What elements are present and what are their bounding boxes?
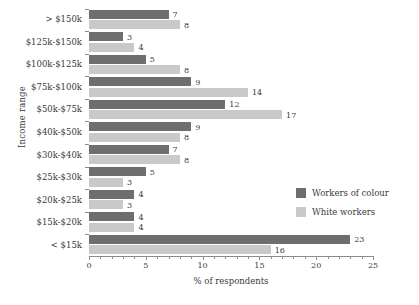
x-tick-major bbox=[373, 256, 374, 260]
x-tick-minor bbox=[362, 256, 363, 259]
y-category-label: < $15k bbox=[51, 240, 82, 250]
bar-row: $75k-$100k914 bbox=[89, 76, 373, 99]
bar-white-workers bbox=[89, 155, 180, 164]
x-tick-minor bbox=[180, 256, 181, 259]
bar-value-label: 8 bbox=[184, 20, 189, 29]
bar-value-label: 3 bbox=[127, 178, 132, 187]
x-tick-label: 25 bbox=[368, 261, 378, 270]
x-tick-minor bbox=[305, 256, 306, 259]
bar-value-label: 4 bbox=[138, 212, 143, 221]
x-tick-minor bbox=[350, 256, 351, 259]
x-tick-major bbox=[89, 256, 90, 260]
bar-chart: Income range 0510152025 > $150k78$125k-$… bbox=[0, 0, 419, 305]
bar-value-label: 23 bbox=[354, 235, 364, 244]
bar-white-workers bbox=[89, 20, 180, 29]
x-axis-title: % of respondents bbox=[89, 276, 373, 286]
x-tick-minor bbox=[100, 256, 101, 259]
bar-white-workers bbox=[89, 88, 248, 97]
bar-workers-of-colour bbox=[89, 10, 169, 19]
x-tick-major bbox=[316, 256, 317, 260]
bar-value-label: 3 bbox=[127, 32, 132, 41]
bar-row: $125k-$150k34 bbox=[89, 31, 373, 54]
bar-row: $30k-$40k78 bbox=[89, 143, 373, 166]
bar-value-label: 3 bbox=[127, 200, 132, 209]
y-category-label: $40k-$50k bbox=[37, 127, 82, 137]
bar-white-workers bbox=[89, 245, 271, 254]
x-tick-label: 5 bbox=[143, 261, 148, 270]
bar-workers-of-colour bbox=[89, 122, 191, 131]
bar-white-workers bbox=[89, 223, 134, 232]
bar-workers-of-colour bbox=[89, 235, 350, 244]
x-tick-minor bbox=[134, 256, 135, 259]
bar-workers-of-colour bbox=[89, 32, 123, 41]
bar-white-workers bbox=[89, 178, 123, 187]
bar-white-workers bbox=[89, 200, 123, 209]
bar-row: < $15k2316 bbox=[89, 233, 373, 256]
x-tick-minor bbox=[282, 256, 283, 259]
bar-value-label: 4 bbox=[138, 223, 143, 232]
bar-workers-of-colour bbox=[89, 190, 134, 199]
y-axis-title: Income range bbox=[17, 62, 27, 172]
bar-row: $25k-$30k53 bbox=[89, 166, 373, 189]
x-tick-major bbox=[146, 256, 147, 260]
legend-item-white-workers: White workers bbox=[296, 207, 389, 217]
y-category-label: $25k-$30k bbox=[37, 172, 82, 182]
bar-value-label: 8 bbox=[184, 155, 189, 164]
x-axis-line bbox=[89, 256, 373, 257]
legend-label-workers-of-colour: Workers of colour bbox=[312, 188, 389, 198]
bar-row: > $150k78 bbox=[89, 8, 373, 31]
bar-workers-of-colour bbox=[89, 145, 169, 154]
y-category-label: $75k-$100k bbox=[31, 82, 82, 92]
x-tick-label: 10 bbox=[198, 261, 208, 270]
x-tick-minor bbox=[157, 256, 158, 259]
bar-value-label: 7 bbox=[173, 10, 178, 19]
bar-workers-of-colour bbox=[89, 212, 134, 221]
x-tick-minor bbox=[225, 256, 226, 259]
bar-workers-of-colour bbox=[89, 77, 191, 86]
bar-row: $100k-$125k58 bbox=[89, 53, 373, 76]
bar-value-label: 7 bbox=[173, 145, 178, 154]
y-category-label: $100k-$125k bbox=[26, 59, 82, 69]
bar-white-workers bbox=[89, 65, 180, 74]
x-tick-minor bbox=[328, 256, 329, 259]
bar-value-label: 16 bbox=[275, 245, 285, 254]
y-category-label: > $150k bbox=[45, 14, 82, 24]
x-tick-minor bbox=[123, 256, 124, 259]
x-tick-minor bbox=[214, 256, 215, 259]
bar-white-workers bbox=[89, 133, 180, 142]
x-tick-label: 15 bbox=[254, 261, 264, 270]
bar-value-label: 5 bbox=[150, 167, 155, 176]
y-category-label: $30k-$40k bbox=[37, 150, 82, 160]
x-tick-minor bbox=[293, 256, 294, 259]
bar-white-workers bbox=[89, 43, 134, 52]
legend-swatch-icon-light bbox=[296, 207, 306, 217]
bar-value-label: 17 bbox=[286, 110, 296, 119]
x-tick-minor bbox=[271, 256, 272, 259]
bar-white-workers bbox=[89, 110, 282, 119]
x-tick-major bbox=[259, 256, 260, 260]
legend-label-white-workers: White workers bbox=[312, 207, 375, 217]
y-category-label: $15k-$20k bbox=[37, 217, 82, 227]
x-tick-minor bbox=[339, 256, 340, 259]
y-category-label: $125k-$150k bbox=[26, 37, 82, 47]
x-tick-minor bbox=[248, 256, 249, 259]
bar-value-label: 9 bbox=[195, 77, 200, 86]
bar-value-label: 4 bbox=[138, 190, 143, 199]
legend-item-workers-of-colour: Workers of colour bbox=[296, 188, 389, 198]
x-tick-minor bbox=[237, 256, 238, 259]
bar-workers-of-colour bbox=[89, 55, 146, 64]
bar-value-label: 8 bbox=[184, 65, 189, 74]
bar-value-label: 8 bbox=[184, 133, 189, 142]
bar-workers-of-colour bbox=[89, 167, 146, 176]
bar-value-label: 4 bbox=[138, 43, 143, 52]
x-tick-major bbox=[203, 256, 204, 260]
bar-workers-of-colour bbox=[89, 100, 225, 109]
y-category-label: $20k-$25k bbox=[37, 195, 82, 205]
x-tick-minor bbox=[112, 256, 113, 259]
bar-row: $50k-$75k1217 bbox=[89, 98, 373, 121]
x-tick-minor bbox=[169, 256, 170, 259]
bar-value-label: 14 bbox=[252, 88, 262, 97]
y-category-label: $50k-$75k bbox=[37, 104, 82, 114]
legend-swatch-icon-dark bbox=[296, 188, 306, 198]
bar-value-label: 9 bbox=[195, 122, 200, 131]
